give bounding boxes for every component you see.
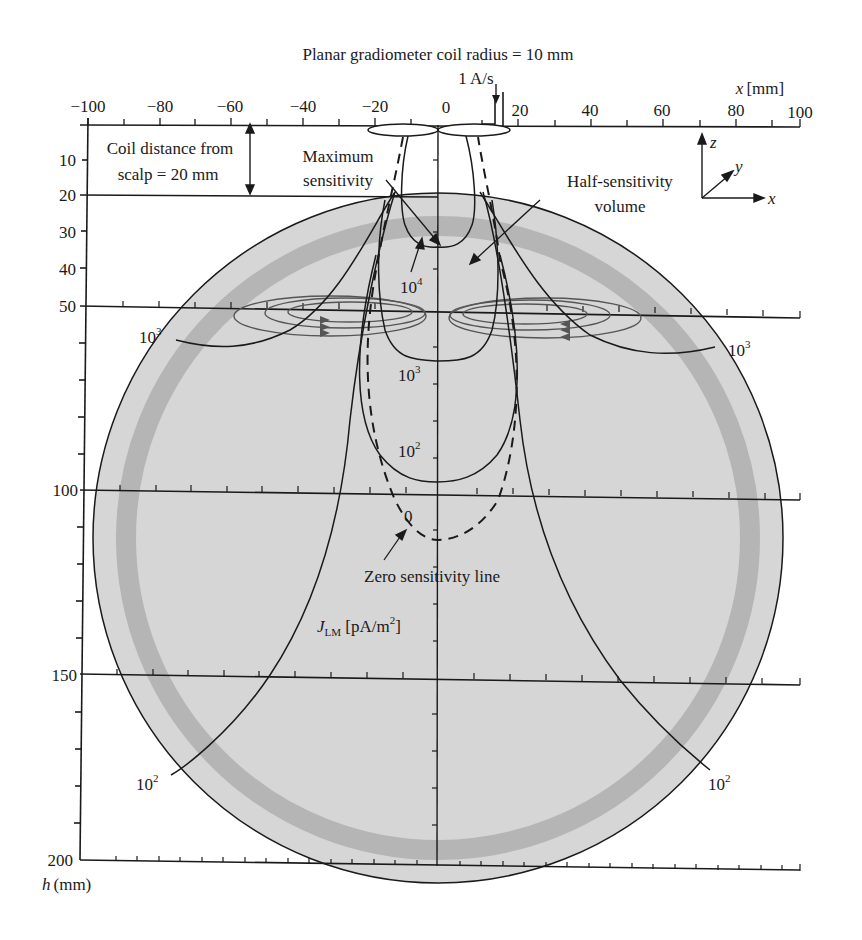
triad-x: x: [767, 189, 776, 208]
svg-text:−20: −20: [362, 97, 389, 116]
label-1e2-right: 102: [708, 772, 731, 794]
svg-text:20: 20: [59, 186, 76, 205]
svg-text:40: 40: [59, 260, 76, 279]
diagram-title: Planar gradiometer coil radius = 10 mm: [302, 45, 573, 64]
axes-triad-icon: [698, 134, 764, 202]
half-sensitivity-label: Half-sensitivity: [567, 172, 673, 191]
svg-text:40: 40: [582, 101, 599, 120]
x-axis-labels: −100 −80 −60 −40 −20 0 20 40 60 80 100: [70, 97, 812, 122]
x-axis-title: x[mm]: [735, 79, 784, 98]
svg-text:−40: −40: [290, 97, 317, 116]
h-axis-labels: 10 20 30 40 50 100 150 200: [48, 151, 79, 870]
coil-distance-arrow: [246, 124, 254, 194]
svg-text:150: 150: [52, 666, 78, 685]
triad-z: z: [709, 133, 717, 152]
max-sensitivity-label-2: sensitivity: [303, 171, 373, 190]
label-1e2-left: 102: [136, 772, 159, 794]
svg-text:80: 80: [728, 101, 745, 120]
svg-text:30: 30: [59, 223, 76, 242]
current-label: 1 A/s: [458, 69, 493, 88]
max-sensitivity-label: Maximum: [303, 147, 374, 166]
svg-text:200: 200: [48, 851, 74, 870]
label-1e3-right: 103: [728, 338, 751, 360]
sensitivity-diagram: Planar gradiometer coil radius = 10 mm: [0, 0, 862, 940]
svg-text:−80: −80: [147, 97, 174, 116]
svg-text:100: 100: [787, 103, 813, 122]
svg-text:20: 20: [512, 101, 529, 120]
coil-leads: [482, 92, 503, 126]
svg-text:0: 0: [442, 98, 451, 117]
half-sensitivity-label-2: volume: [595, 197, 646, 216]
coil-distance-label-2: scalp = 20 mm: [118, 165, 219, 184]
svg-text:10: 10: [59, 151, 76, 170]
triad-y: y: [733, 157, 743, 176]
coil-distance-label: Coil distance from: [107, 139, 234, 158]
svg-text:50: 50: [59, 297, 76, 316]
svg-text:−100: −100: [70, 97, 105, 116]
svg-text:−60: −60: [217, 97, 244, 116]
svg-text:60: 60: [654, 101, 671, 120]
h-axis-title: h(mm): [42, 875, 91, 894]
svg-text:100: 100: [53, 481, 79, 500]
label-zero: 0: [404, 507, 413, 526]
zero-line-label: Zero sensitivity line: [364, 567, 500, 586]
